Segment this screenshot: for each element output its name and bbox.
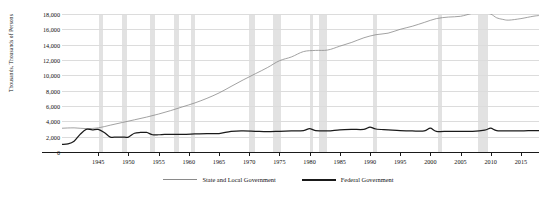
- x-tick-label: 1980: [303, 158, 315, 165]
- x-tick-mark: [98, 152, 99, 156]
- y-tick-label: 16,000: [43, 26, 60, 33]
- x-tick-mark: [189, 152, 190, 156]
- chart-legend: State and Local Government Federal Gover…: [0, 176, 557, 183]
- y-tick-label: 6,000: [46, 103, 60, 110]
- x-tick-mark: [491, 152, 492, 156]
- legend-item-federal: Federal Government: [302, 176, 394, 183]
- x-tick-label: 1960: [183, 158, 195, 165]
- x-tick-mark: [430, 152, 431, 156]
- legend-item-state-local: State and Local Government: [163, 176, 275, 183]
- y-tick-label: 10,000: [43, 72, 60, 79]
- y-tick-label: 8,000: [46, 87, 60, 94]
- legend-label-federal: Federal Government: [341, 176, 394, 183]
- x-tick-label: 1985: [334, 158, 346, 165]
- x-tick-mark: [128, 152, 129, 156]
- chart-title-text: ··: [0, 0, 557, 3]
- x-tick-label: 2015: [515, 158, 527, 165]
- chart-figure: ·· Thousands, Thousands of Persons 02,00…: [0, 0, 557, 200]
- x-tick-mark: [521, 152, 522, 156]
- x-tick-mark: [279, 152, 280, 156]
- y-tick-label: 4,000: [46, 118, 60, 125]
- x-axis-line: [62, 152, 539, 153]
- plot-area: [62, 14, 539, 152]
- x-tick-label: 1995: [394, 158, 406, 165]
- x-tick-label: 1970: [243, 158, 255, 165]
- y-tick-label: 18,000: [43, 11, 60, 18]
- y-tick-label: 14,000: [43, 41, 60, 48]
- series-lines: [62, 14, 539, 152]
- x-tick-mark: [219, 152, 220, 156]
- x-tick-label: 1950: [122, 158, 134, 165]
- x-tick-label: 1965: [213, 158, 225, 165]
- x-tick-label: 1975: [273, 158, 285, 165]
- x-tick-label: 2010: [485, 158, 497, 165]
- x-tick-mark: [340, 152, 341, 156]
- legend-swatch-federal-icon: [302, 179, 336, 181]
- series-line-state-local: [62, 14, 539, 129]
- x-axis-extension: [42, 152, 62, 153]
- legend-label-state-local: State and Local Government: [202, 176, 275, 183]
- x-tick-label: 1945: [92, 158, 104, 165]
- x-tick-label: 1990: [364, 158, 376, 165]
- x-tick-mark: [249, 152, 250, 156]
- x-tick-mark: [400, 152, 401, 156]
- chart-title-clipped: ··: [0, 0, 557, 7]
- x-tick-mark: [310, 152, 311, 156]
- y-axis-label: Thousands, Thousands of Persons: [8, 0, 14, 108]
- y-tick-label: 2,000: [46, 133, 60, 140]
- x-tick-mark: [461, 152, 462, 156]
- series-line-federal: [62, 127, 539, 144]
- x-tick-mark: [370, 152, 371, 156]
- x-tick-label: 2005: [454, 158, 466, 165]
- y-axis-tick-labels: 02,0004,0006,0008,00010,00012,00014,0001…: [18, 9, 60, 159]
- x-tick-label: 2000: [424, 158, 436, 165]
- x-tick-label: 1955: [152, 158, 164, 165]
- legend-swatch-state-local-icon: [163, 179, 197, 180]
- x-tick-mark: [159, 152, 160, 156]
- y-tick-label: 12,000: [43, 57, 60, 64]
